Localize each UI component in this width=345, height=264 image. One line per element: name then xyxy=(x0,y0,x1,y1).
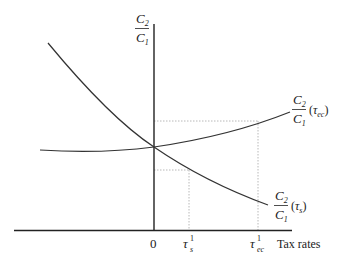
tax-ratio-diagram: C2 C1 C2 C1 (τec) C2 C1 (τs) 0 τ 1 s τ 1… xyxy=(0,0,345,264)
svg-text:1: 1 xyxy=(257,234,261,243)
svg-text:C2: C2 xyxy=(275,188,288,205)
svg-text:(τec): (τec) xyxy=(309,103,328,119)
svg-text:C2: C2 xyxy=(136,11,149,28)
curve-ratio-vs-tau-ec xyxy=(40,112,290,151)
origin-label: 0 xyxy=(150,236,157,251)
curve-label-tau-s: C2 C1 (τs) xyxy=(274,188,306,224)
tick-label-tau-ec: τ 1 ec xyxy=(250,234,265,254)
svg-text:C1: C1 xyxy=(136,30,149,47)
curve-label-tau-ec: C2 C1 (τec) xyxy=(292,92,328,128)
svg-text:s: s xyxy=(190,245,193,254)
svg-text:C1: C1 xyxy=(275,207,288,224)
curve-ratio-vs-tau-s xyxy=(48,43,268,205)
svg-text:ec: ec xyxy=(257,245,265,254)
tick-label-tau-s: τ 1 s xyxy=(183,234,194,254)
svg-text:(τs): (τs) xyxy=(291,199,306,215)
svg-text:τ: τ xyxy=(183,236,189,251)
svg-text:τ: τ xyxy=(250,236,256,251)
svg-text:C2: C2 xyxy=(293,92,306,109)
svg-text:C1: C1 xyxy=(293,111,306,128)
y-axis-label: C2 C1 xyxy=(135,11,149,47)
svg-text:1: 1 xyxy=(190,234,194,243)
x-axis-label: Tax rates xyxy=(277,237,321,251)
